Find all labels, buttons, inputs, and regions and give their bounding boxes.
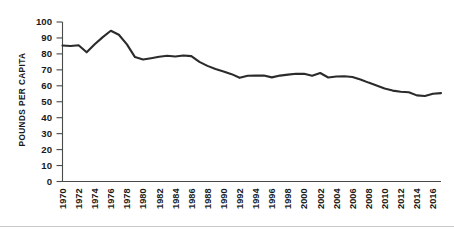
y-axis-tick-labels: 1009080706050403020100 bbox=[36, 16, 52, 187]
x-axis-tick-label: 2008 bbox=[364, 189, 374, 209]
y-axis-tick-label: 80 bbox=[41, 48, 52, 59]
y-axis-tick-label: 60 bbox=[41, 80, 52, 91]
x-axis-tick-label: 2006 bbox=[348, 189, 358, 209]
y-axis-tick-label: 20 bbox=[41, 144, 52, 155]
x-axis-tick-labels: 1970197219741976197819801982198419861988… bbox=[58, 188, 438, 209]
x-axis-tick-label: 1992 bbox=[235, 189, 245, 209]
x-axis-tick-label: 1988 bbox=[203, 189, 213, 209]
x-axis-tick-label: 2010 bbox=[380, 189, 390, 209]
x-axis-tick-label: 1972 bbox=[74, 189, 84, 209]
footer-divider bbox=[0, 226, 454, 227]
x-axis-tick-label: 1998 bbox=[283, 189, 293, 209]
x-axis-tick-label: 1986 bbox=[187, 189, 197, 209]
y-axis-tick-label: 90 bbox=[41, 32, 52, 43]
y-axis-tick-label: 100 bbox=[36, 16, 52, 27]
axis-spine bbox=[63, 22, 442, 182]
x-axis-tick-label: 1994 bbox=[251, 188, 261, 209]
x-axis-tick-label: 2014 bbox=[412, 188, 422, 209]
y-axis-tick-label: 30 bbox=[41, 128, 52, 139]
y-axis-tick-label: 10 bbox=[41, 160, 52, 171]
y-axis-tick-label: 70 bbox=[41, 64, 52, 75]
x-axis-tick-label: 1980 bbox=[138, 189, 148, 209]
x-axis-tick-label: 2004 bbox=[332, 188, 342, 209]
x-axis-tick-label: 1978 bbox=[122, 189, 132, 209]
x-axis-tick-label: 1996 bbox=[267, 189, 277, 209]
y-axis-tick-label: 0 bbox=[47, 176, 52, 187]
y-axis-tick-label: 40 bbox=[41, 112, 52, 123]
x-axis-tick-label: 1984 bbox=[171, 188, 181, 209]
x-axis-tick-label: 2012 bbox=[396, 189, 406, 209]
x-axis-tick-label: 1990 bbox=[219, 189, 229, 209]
x-axis-tick-label: 2002 bbox=[316, 189, 326, 209]
x-axis-tick-label: 1970 bbox=[58, 189, 68, 209]
x-axis-tick-label: 2000 bbox=[299, 189, 309, 209]
x-axis-tick-label: 1974 bbox=[90, 188, 100, 209]
chart-plot-area: 1009080706050403020100 19701972197419761… bbox=[0, 0, 454, 232]
y-axis-tick-label: 50 bbox=[41, 96, 52, 107]
x-axis-tick-label: 1976 bbox=[106, 189, 116, 209]
x-axis-tick-label: 2016 bbox=[428, 189, 438, 209]
line-chart: POUNDS PER CAPITA 1009080706050403020100… bbox=[0, 0, 454, 232]
data-series-line bbox=[63, 31, 442, 96]
x-axis-tick-label: 1982 bbox=[155, 189, 165, 209]
